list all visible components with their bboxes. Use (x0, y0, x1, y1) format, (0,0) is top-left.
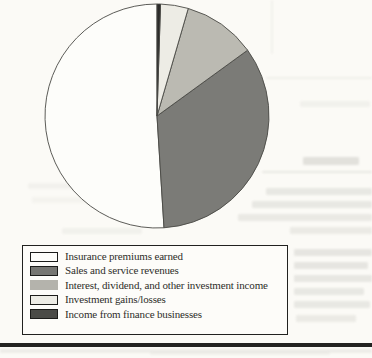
legend-swatch-finance (30, 309, 58, 319)
bleed-through-smudge (294, 288, 364, 295)
legend-label: Interest, dividend, and other investment… (65, 280, 268, 291)
page-divider-rule (0, 343, 372, 347)
legend-label: Income from finance businesses (65, 309, 202, 320)
bleed-through-smudge (294, 262, 368, 269)
legend-label: Insurance premiums earned (65, 251, 183, 262)
legend-item: Insurance premiums earned (30, 251, 287, 262)
pie-chart (0, 0, 372, 238)
bleed-through-smudge (296, 315, 356, 322)
legend-swatch-gains (30, 295, 58, 305)
legend-item: Interest, dividend, and other investment… (30, 280, 287, 291)
legend-item: Sales and service revenues (30, 265, 287, 276)
scanned-page: Insurance premiums earned Sales and serv… (0, 0, 372, 358)
bleed-through-smudge (294, 249, 372, 256)
legend-swatch-interest (30, 280, 58, 290)
pie-slice-0 (45, 4, 164, 228)
legend-item: Investment gains/losses (30, 294, 287, 305)
legend-swatch-insurance (30, 252, 58, 262)
bleed-through-smudge (150, 352, 330, 355)
legend-label: Sales and service revenues (65, 265, 179, 276)
bleed-through-smudge (294, 275, 372, 282)
bleed-through-smudge (294, 301, 370, 308)
pie-svg (0, 0, 372, 238)
legend-label: Investment gains/losses (65, 294, 166, 305)
chart-legend: Insurance premiums earned Sales and serv… (22, 245, 288, 335)
legend-swatch-sales (30, 266, 58, 276)
legend-item: Income from finance businesses (30, 309, 287, 320)
